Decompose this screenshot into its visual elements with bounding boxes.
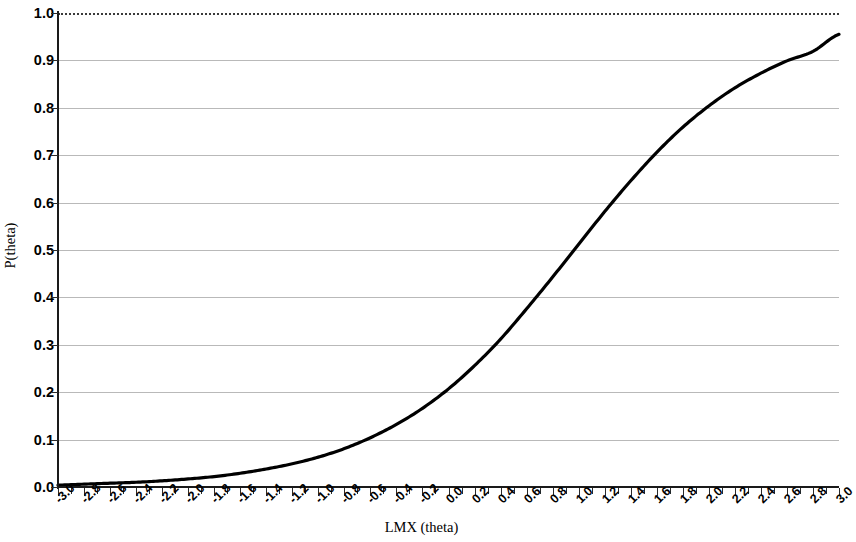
x-axis-minor-tick-mark bbox=[279, 488, 280, 494]
x-axis-tick-mark bbox=[709, 488, 710, 496]
x-axis-tick-mark bbox=[58, 488, 59, 496]
y-axis-tick-mark bbox=[51, 297, 58, 298]
x-axis-minor-tick-mark bbox=[227, 488, 228, 494]
x-axis-minor-tick-mark bbox=[383, 488, 384, 494]
y-axis-tick-label: 0.4 bbox=[18, 290, 54, 305]
x-axis-tick-mark bbox=[839, 488, 840, 496]
x-axis-minor-tick-mark bbox=[357, 488, 358, 494]
x-axis-tick-mark bbox=[735, 488, 736, 496]
x-axis-title-text: LMX (theta) bbox=[385, 519, 459, 535]
x-axis-minor-tick-mark bbox=[331, 488, 332, 494]
x-axis-tick-mark bbox=[813, 488, 814, 496]
y-axis-tick-label: 1.0 bbox=[18, 6, 54, 21]
y-axis-tick-mark bbox=[51, 155, 58, 156]
x-axis-tick-mark bbox=[605, 488, 606, 496]
y-axis-tick-label: 0.2 bbox=[18, 385, 54, 400]
x-axis-minor-tick-mark bbox=[149, 488, 150, 494]
y-axis-tick-mark bbox=[51, 203, 58, 204]
x-axis-minor-tick-mark bbox=[409, 488, 410, 494]
x-axis-tick-mark bbox=[318, 488, 319, 496]
plot-area bbox=[58, 13, 839, 487]
x-axis-tick-mark bbox=[292, 488, 293, 496]
x-axis-minor-tick-mark bbox=[800, 488, 801, 494]
x-axis-tick-mark bbox=[370, 488, 371, 496]
y-axis-tick-mark bbox=[51, 108, 58, 109]
y-axis-tick-label: 0.0 bbox=[18, 480, 54, 495]
y-axis-tick-mark bbox=[51, 440, 58, 441]
x-axis-tick-mark bbox=[553, 488, 554, 496]
x-axis-tick-mark bbox=[449, 488, 450, 496]
x-axis-tick-mark bbox=[84, 488, 85, 496]
y-axis-tick-labels: 0.00.10.20.30.40.50.60.70.80.91.0 bbox=[18, 0, 54, 490]
x-axis-minor-tick-mark bbox=[722, 488, 723, 494]
x-axis-minor-tick-mark bbox=[514, 488, 515, 494]
y-axis-tick-label: 0.1 bbox=[18, 432, 54, 447]
x-axis-tick-mark bbox=[396, 488, 397, 496]
x-axis-tick-mark bbox=[110, 488, 111, 496]
x-axis-minor-tick-mark bbox=[201, 488, 202, 494]
x-axis-minor-tick-mark bbox=[592, 488, 593, 494]
y-axis-tick-mark bbox=[51, 392, 58, 393]
x-axis-tick-mark bbox=[344, 488, 345, 496]
curve-svg bbox=[58, 13, 839, 487]
x-axis-minor-tick-mark bbox=[97, 488, 98, 494]
x-axis-tick-mark bbox=[631, 488, 632, 496]
x-axis-tick-mark bbox=[188, 488, 189, 496]
data-curve bbox=[58, 34, 839, 485]
x-axis-minor-tick-mark bbox=[696, 488, 697, 494]
x-axis-tick-mark bbox=[266, 488, 267, 496]
x-axis-tick-mark bbox=[657, 488, 658, 496]
x-axis-minor-tick-mark bbox=[748, 488, 749, 494]
y-axis-tick-mark bbox=[51, 487, 58, 488]
y-axis-tick-mark bbox=[51, 250, 58, 251]
x-axis-tick-mark bbox=[240, 488, 241, 496]
x-axis-minor-tick-mark bbox=[253, 488, 254, 494]
x-axis-minor-tick-mark bbox=[71, 488, 72, 494]
x-axis-tick-mark bbox=[761, 488, 762, 496]
x-axis-title: LMX (theta) bbox=[0, 519, 843, 536]
x-axis-minor-tick-mark bbox=[670, 488, 671, 494]
x-axis-minor-tick-mark bbox=[540, 488, 541, 494]
x-axis-minor-tick-mark bbox=[462, 488, 463, 494]
y-axis-tick-mark bbox=[51, 345, 58, 346]
y-axis-tick-mark bbox=[51, 13, 58, 14]
x-axis-minor-tick-mark bbox=[488, 488, 489, 494]
y-axis-tick-label: 0.9 bbox=[18, 53, 54, 68]
x-axis-minor-tick-mark bbox=[618, 488, 619, 494]
x-axis-tick-mark bbox=[527, 488, 528, 496]
y-axis-tick-label: 0.6 bbox=[18, 195, 54, 210]
x-axis-minor-tick-mark bbox=[566, 488, 567, 494]
y-axis-title-text: P(theta) bbox=[3, 222, 20, 268]
x-axis-minor-tick-mark bbox=[774, 488, 775, 494]
x-axis-tick-mark bbox=[579, 488, 580, 496]
x-axis-tick-mark bbox=[501, 488, 502, 496]
x-axis-minor-tick-mark bbox=[644, 488, 645, 494]
x-axis-minor-tick-mark bbox=[435, 488, 436, 494]
x-axis-minor-tick-mark bbox=[826, 488, 827, 494]
x-axis-tick-mark bbox=[475, 488, 476, 496]
x-axis-tick-mark bbox=[683, 488, 684, 496]
x-axis-minor-tick-mark bbox=[305, 488, 306, 494]
x-axis-tick-mark bbox=[136, 488, 137, 496]
y-axis-tick-mark bbox=[51, 60, 58, 61]
x-axis-minor-tick-mark bbox=[123, 488, 124, 494]
x-axis-tick-mark bbox=[214, 488, 215, 496]
y-axis-tick-label: 0.3 bbox=[18, 338, 54, 353]
x-axis-tick-mark bbox=[422, 488, 423, 496]
x-axis-tick-mark bbox=[787, 488, 788, 496]
y-axis-tick-label: 0.5 bbox=[18, 243, 54, 258]
x-axis-tick-mark bbox=[162, 488, 163, 496]
x-axis-minor-tick-mark bbox=[175, 488, 176, 494]
y-axis-tick-label: 0.8 bbox=[18, 101, 54, 116]
y-axis-tick-label: 0.7 bbox=[18, 148, 54, 163]
